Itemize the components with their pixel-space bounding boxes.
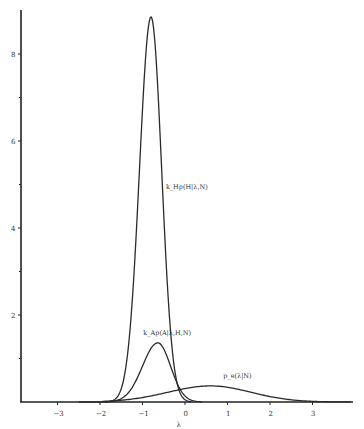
x-tick-label: −1 [139, 410, 149, 418]
x-ticks: −3−2−10123 [54, 402, 316, 418]
y-tick-label: 6 [11, 138, 16, 146]
x-tick-label: −2 [96, 410, 106, 418]
curve-ka [102, 343, 202, 402]
x-tick-label: −3 [54, 410, 64, 418]
curve-kh [79, 17, 192, 402]
curves [79, 17, 351, 402]
y-tick-label: 2 [11, 312, 15, 320]
x-tick-label: 2 [269, 410, 273, 418]
curve-labels: k_Hp(H|λ,N) k_Ap(A|λ,H,N) p_e(λ|N) [143, 183, 252, 380]
y-tick-label: 8 [11, 51, 15, 59]
y-tick-label: 4 [11, 225, 16, 233]
curve-label-kh: k_Hp(H|λ,N) [166, 183, 208, 191]
curve-label-pe: p_e(λ|N) [223, 372, 252, 380]
x-tick-label: 1 [226, 410, 230, 418]
chart: −3−2−10123 2468 k_Hp(H|λ,N) k_Ap(A|λ,H,N… [0, 0, 364, 429]
curve-label-ka: k_Ap(A|λ,H,N) [143, 329, 191, 337]
x-tick-label: 3 [311, 410, 315, 418]
x-axis-label: λ [177, 421, 182, 429]
x-tick-label: 0 [184, 410, 188, 418]
curve-pe [102, 386, 351, 402]
y-ticks: 2468 [11, 51, 21, 359]
axes [20, 10, 353, 402]
